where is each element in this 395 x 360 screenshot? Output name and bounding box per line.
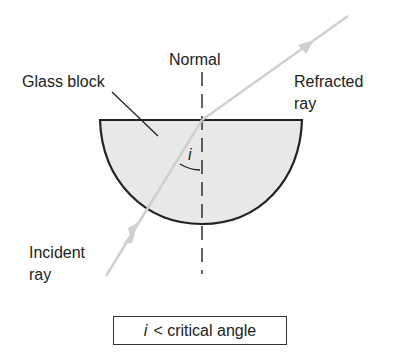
caption-variable: i <box>144 322 148 339</box>
incident-ray-label-line1: Incident <box>29 243 85 262</box>
caption-box: i< critical angle <box>113 316 287 345</box>
glass-block-shape <box>100 120 302 224</box>
caption-text: < critical angle <box>153 322 256 339</box>
angle-i-label: i <box>188 145 192 164</box>
glass-block-label: Glass block <box>22 72 105 91</box>
refracted-ray-label-line2: ray <box>294 94 316 113</box>
incident-ray-label-line2: ray <box>29 265 51 284</box>
refracted-ray-arrow-icon <box>298 40 314 54</box>
refracted-ray <box>202 16 348 120</box>
refracted-ray-label-line1: Refracted <box>294 72 363 91</box>
normal-label: Normal <box>169 50 221 69</box>
